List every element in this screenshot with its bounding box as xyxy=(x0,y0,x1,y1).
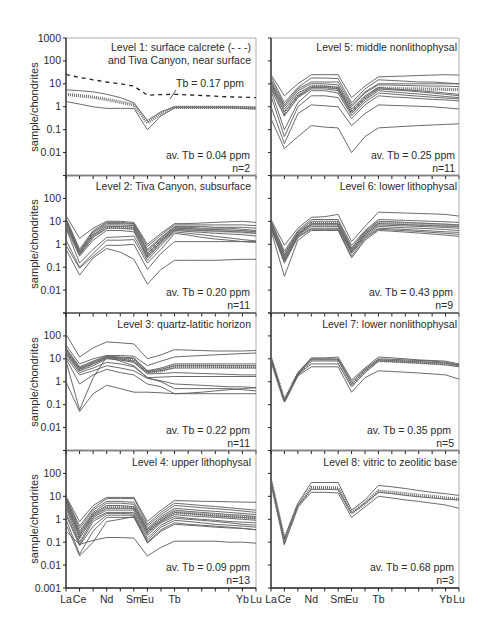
panel-1-title-line2: and Tiva Canyon, near surface xyxy=(108,54,251,66)
y-tick-label: 1 xyxy=(55,238,61,250)
y-axis-label-row2: sample/chondrites xyxy=(28,199,40,289)
x-tick-label-lu: Lu xyxy=(250,593,262,605)
y-tick-label: 100 xyxy=(43,329,61,341)
x-tick-label-la: La xyxy=(60,593,72,605)
panel-4-n-label: n=13 xyxy=(226,574,250,586)
y-tick-label: 0.01 xyxy=(41,284,62,296)
x-tick-label-yb: Yb xyxy=(439,593,452,605)
panel-7-n-label: n=5 xyxy=(436,437,454,449)
x-tick-label-tb: Tb xyxy=(168,593,180,605)
y-tick-label: 100 xyxy=(43,54,61,66)
panel-2-title: Level 2: Tiva Canyon, subsurface xyxy=(96,180,251,192)
x-tick-label-yb: Yb xyxy=(236,593,249,605)
panel-1-n-label: n=2 xyxy=(232,162,250,174)
ree-spider-diagram-figure: sample/chondrites sample/chondrites samp… xyxy=(0,0,482,633)
panel-5-n-label: n=11 xyxy=(432,162,455,174)
panel-7-avg-label: av. Tb = 0.35 ppm xyxy=(367,424,451,436)
x-tick-label-nd: Nd xyxy=(100,593,114,605)
y-tick-label: 0.01 xyxy=(41,421,62,433)
panel-3-avg-label: av. Tb = 0.22 ppm xyxy=(166,424,250,436)
panel-6-n-label: n=9 xyxy=(435,299,453,311)
y-tick-label: 1 xyxy=(55,375,61,387)
panel-3-n-label: n=11 xyxy=(227,437,250,449)
y-tick-label: 0.01 xyxy=(41,559,62,571)
panel-5-avg-label: av. Tb = 0.25 ppm xyxy=(371,149,455,161)
x-tick-label-eu: Eu xyxy=(141,593,154,605)
y-tick-label: 0.1 xyxy=(46,123,61,135)
y-tick-label: 0.1 xyxy=(46,261,61,273)
y-axis-label-row4: sample/chondrites xyxy=(28,474,40,564)
y-tick-label: 1 xyxy=(55,513,61,525)
panel-4-title: Level 4: upper lithophysal xyxy=(132,456,251,468)
y-tick-label: 10 xyxy=(49,77,61,89)
panel-8-title: Level 8: vitric to zeolitic base xyxy=(323,456,457,468)
panel-1-title: Level 1: surface calcrete (- - -) xyxy=(111,41,251,53)
x-tick-label-ce: Ce xyxy=(73,593,87,605)
panel-2-n-label: n=11 xyxy=(227,299,250,311)
y-tick-label: 1000 xyxy=(38,32,62,44)
x-tick-label-ce: Ce xyxy=(278,593,292,605)
x-tick-label-nd: Nd xyxy=(305,593,319,605)
y-tick-label: 1 xyxy=(55,100,61,112)
y-tick-label: 10 xyxy=(49,215,61,227)
y-tick-label: 0.01 xyxy=(41,146,62,158)
y-axis-label-row1: sample/chondrites xyxy=(28,62,40,152)
x-tick-label-sm: Sm xyxy=(126,593,142,605)
y-tick-label: 10 xyxy=(49,352,61,364)
y-tick-label: 0.1 xyxy=(46,536,61,548)
panel-1-avg-label: av. Tb = 0.04 ppm xyxy=(166,149,250,161)
panel-6-avg-label: av. Tb = 0.43 ppm xyxy=(369,286,453,298)
y-tick-label: 10 xyxy=(49,490,61,502)
x-tick-label-lu: Lu xyxy=(453,593,465,605)
y-tick-label: 100 xyxy=(43,467,61,479)
y-axis-label-row3: sample/chondrites xyxy=(28,337,40,427)
panel-2-avg-label: av. Tb = 0.20 ppm xyxy=(166,286,250,298)
y-tick-label: 100 xyxy=(43,192,61,204)
panel-3-title: Level 3: quartz-latitic horizon xyxy=(117,318,251,330)
x-tick-label-tb: Tb xyxy=(372,593,384,605)
panel-8-avg-label: av. Tb = 0.68 ppm xyxy=(370,561,454,573)
y-tick-label: 0.001 xyxy=(35,582,61,594)
panel-4-avg-label: av. Tb = 0.09 ppm xyxy=(166,561,250,573)
panel-6-title: Level 6: lower lithophysal xyxy=(340,180,457,192)
panel-1-tb-annotation: Tb = 0.17 ppm xyxy=(176,77,244,89)
panel-5-title: Level 5: middle nonlithophysal xyxy=(316,41,457,53)
x-tick-label-eu: Eu xyxy=(345,593,358,605)
panel-8-n-label: n=3 xyxy=(436,574,454,586)
x-tick-label-sm: Sm xyxy=(330,593,346,605)
x-tick-label-la: La xyxy=(265,593,277,605)
panel-7-title: Level 7: lower nonlithophysal xyxy=(322,318,457,330)
y-tick-label: 0.1 xyxy=(46,398,61,410)
